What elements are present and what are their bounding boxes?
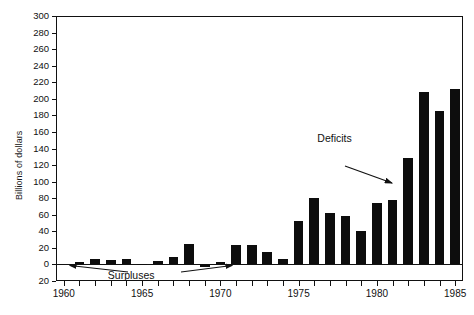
x-tick-mark [79, 281, 80, 286]
bar-chart: Billions of dollars 30028026024022020018… [0, 0, 474, 315]
bar [388, 200, 398, 265]
bar [435, 111, 445, 264]
x-tick-label: 1975 [279, 289, 319, 299]
y-tick-label: 60 [23, 210, 49, 219]
zero-baseline [56, 264, 463, 265]
bar [137, 264, 147, 265]
x-tick-mark [173, 281, 174, 286]
x-tick-mark [330, 281, 331, 286]
x-tick-mark [95, 281, 96, 286]
x-tick-label: 1965 [122, 289, 162, 299]
bar [247, 245, 257, 264]
x-tick-mark [252, 281, 253, 286]
bar [278, 259, 288, 264]
bar [419, 92, 429, 264]
bar [122, 259, 132, 264]
x-tick-label: 1970 [200, 289, 240, 299]
x-tick-mark [205, 281, 206, 286]
x-tick-mark [393, 281, 394, 286]
x-tick-mark [361, 281, 362, 286]
x-tick-mark [424, 281, 425, 286]
x-tick-label: 1960 [44, 289, 84, 299]
bar [75, 262, 85, 264]
y-tick-label: 240 [23, 61, 49, 70]
bar [403, 158, 413, 264]
y-tick-label: 280 [23, 28, 49, 37]
x-tick-mark [236, 281, 237, 286]
x-tick-mark [440, 281, 441, 286]
y-tick-label: 300 [23, 11, 49, 20]
x-tick-mark [126, 281, 127, 286]
x-tick-mark [455, 281, 456, 286]
y-tick-label: 160 [23, 127, 49, 136]
bar [325, 213, 335, 264]
bar [356, 231, 366, 264]
y-tick-label: 40 [23, 226, 49, 235]
x-tick-mark [158, 281, 159, 286]
y-tick-label: 20 [23, 243, 49, 252]
x-tick-label: 1980 [357, 289, 397, 299]
annotation-surpluses-label: Surpluses [108, 269, 155, 281]
x-tick-mark [142, 281, 143, 286]
plot-area-frame [56, 16, 463, 281]
x-tick-mark [111, 281, 112, 286]
x-tick-label: 1985 [435, 289, 474, 299]
x-tick-mark [220, 281, 221, 286]
y-tick-label: 20 [23, 276, 49, 285]
bar [341, 216, 351, 264]
bar [216, 262, 226, 264]
x-tick-mark [408, 281, 409, 286]
y-tick-label: 220 [23, 77, 49, 86]
y-tick-mark [52, 281, 56, 282]
bar [450, 89, 460, 265]
y-tick-label: 140 [23, 144, 49, 153]
bar [372, 203, 382, 264]
bar [231, 245, 241, 264]
x-tick-mark [346, 281, 347, 286]
y-tick-label: 260 [23, 44, 49, 53]
x-tick-mark [267, 281, 268, 286]
bar [90, 259, 100, 265]
y-tick-label: 100 [23, 177, 49, 186]
bar [169, 257, 179, 264]
x-tick-mark [283, 281, 284, 286]
x-tick-mark [314, 281, 315, 286]
x-tick-mark [299, 281, 300, 286]
bar [184, 244, 194, 265]
bar [200, 264, 210, 266]
bar [106, 260, 116, 264]
y-tick-label: 80 [23, 193, 49, 202]
x-tick-mark [64, 281, 65, 286]
annotation-deficits-label: Deficits [317, 132, 351, 144]
bar [309, 198, 319, 264]
x-tick-mark [189, 281, 190, 286]
y-tick-label: 0 [23, 259, 49, 268]
bar [294, 221, 304, 265]
bar [262, 252, 272, 264]
y-tick-label: 180 [23, 110, 49, 119]
x-tick-mark [377, 281, 378, 286]
bar [153, 261, 163, 264]
y-tick-label: 200 [23, 94, 49, 103]
y-tick-label: 120 [23, 160, 49, 169]
